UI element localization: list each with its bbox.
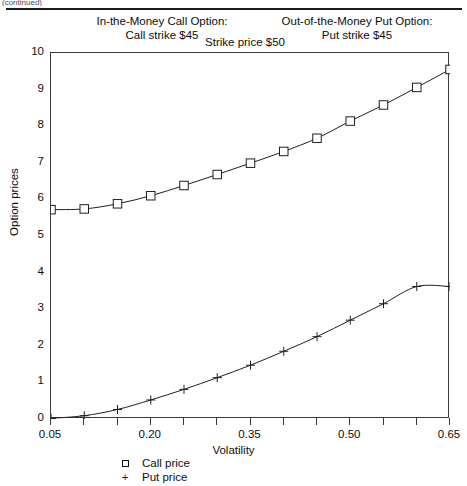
data-point-marker — [379, 101, 388, 110]
legend-item-put: + Put price — [116, 470, 190, 484]
legend-item-call: Call price — [116, 456, 190, 470]
legend-label-put: Put price — [142, 470, 187, 484]
x-axis-title: Volatility — [0, 444, 467, 456]
y-axis-tick-labels: 012345678910 — [22, 52, 44, 418]
data-point-marker — [246, 361, 255, 370]
y-tick-label: 0 — [24, 412, 44, 424]
data-point-marker — [146, 395, 155, 404]
annotation-strike-price: Strike price $50 — [150, 36, 340, 50]
data-point-marker — [313, 134, 322, 143]
x-tick-mark — [150, 418, 151, 425]
chart-legend: Call price + Put price — [116, 456, 190, 484]
annotation-strike-line1: Strike price $50 — [150, 36, 340, 50]
data-point-marker — [346, 316, 355, 325]
horizontal-rule — [6, 8, 462, 10]
x-tick-label: 0.65 — [424, 428, 467, 440]
data-point-marker — [180, 385, 189, 394]
x-tick-label: 0.05 — [25, 428, 75, 440]
y-tick-label: 5 — [24, 229, 44, 241]
x-tick-mark — [449, 418, 450, 425]
data-point-marker — [80, 205, 89, 214]
x-tick-mark — [216, 418, 217, 425]
y-axis-title: Option prices — [8, 142, 20, 262]
y-tick-label: 9 — [24, 83, 44, 95]
data-point-marker — [412, 282, 421, 291]
x-tick-mark — [283, 418, 284, 425]
x-tick-mark — [183, 418, 184, 425]
x-tick-mark — [83, 418, 84, 425]
x-tick-label: 0.20 — [125, 428, 175, 440]
data-point-marker — [346, 117, 355, 126]
data-point-marker — [446, 282, 451, 291]
data-point-marker — [379, 299, 388, 308]
annotation-call-line1: In-the-Money Call Option: — [62, 15, 262, 29]
data-point-marker — [246, 159, 255, 168]
series-call-price — [51, 65, 450, 214]
data-point-marker — [413, 83, 422, 92]
data-point-marker — [147, 191, 156, 200]
data-point-marker — [213, 170, 222, 179]
y-tick-label: 2 — [24, 339, 44, 351]
chart-page: (continued) In-the-Money Call Option: Ca… — [0, 0, 467, 486]
x-tick-mark — [383, 418, 384, 425]
data-point-marker — [213, 373, 222, 382]
x-tick-mark — [250, 418, 251, 425]
plot-svg — [51, 53, 450, 419]
data-point-marker — [446, 65, 450, 74]
x-tick-label: 0.35 — [225, 428, 275, 440]
plot-area — [50, 52, 449, 418]
data-point-marker — [51, 414, 56, 419]
data-point-marker — [279, 347, 288, 356]
y-tick-label: 4 — [24, 266, 44, 278]
series-put-price — [51, 282, 450, 419]
y-tick-label: 3 — [24, 302, 44, 314]
y-tick-label: 8 — [24, 119, 44, 131]
y-tick-label: 7 — [24, 156, 44, 168]
data-point-marker — [180, 181, 189, 190]
x-tick-mark — [349, 418, 350, 425]
y-tick-label: 6 — [24, 192, 44, 204]
x-tick-mark — [117, 418, 118, 425]
x-tick-mark — [416, 418, 417, 425]
x-tick-mark — [316, 418, 317, 425]
data-point-marker — [113, 200, 122, 209]
series-line — [51, 285, 450, 418]
data-point-marker — [313, 332, 322, 341]
y-tick-label: 1 — [24, 375, 44, 387]
data-point-marker — [280, 147, 289, 156]
scan-fragment-text: (continued) — [2, 0, 64, 6]
square-marker-icon — [116, 456, 134, 470]
legend-label-call: Call price — [142, 456, 190, 470]
x-tick-label: 0.50 — [324, 428, 374, 440]
x-tick-mark — [50, 418, 51, 425]
annotation-put-line1: Out-of-the-Money Put Option: — [252, 15, 462, 29]
series-line — [51, 69, 450, 209]
y-tick-label: 10 — [24, 46, 44, 58]
data-point-marker — [113, 405, 122, 414]
data-point-marker — [51, 205, 55, 214]
plus-marker-icon: + — [116, 470, 134, 484]
